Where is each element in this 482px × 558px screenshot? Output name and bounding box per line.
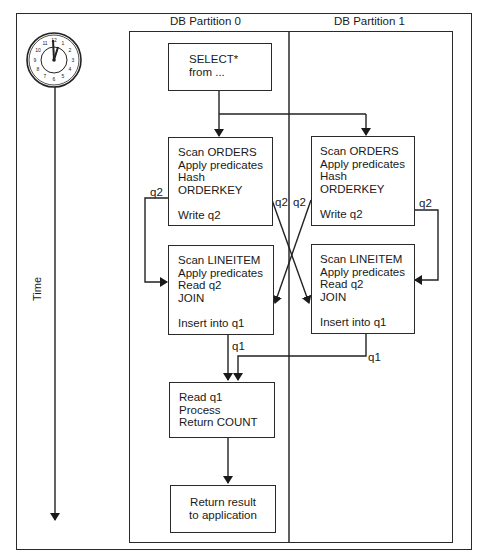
edge-orders-p1-lineitem-p0 [275,200,311,303]
node-return-result: Return result to application [170,485,276,533]
node-read-q1: Read q1 Process Return COUNT [169,382,275,438]
svg-text:3: 3 [72,57,75,63]
edge-orders-p1-lineitem-p1 [414,210,438,280]
svg-text:10: 10 [35,47,41,53]
svg-text:9: 9 [34,57,37,63]
svg-text:4: 4 [69,66,72,72]
node-scan-orders-p1: Scan ORDERS Apply predicates Hash ORDERK… [311,136,415,226]
edge-lineitem-p1-read-q1 [238,333,366,380]
svg-text:11: 11 [42,40,47,46]
node-scan-lineitem-p0: Scan LINEITEM Apply predicates Read q2 J… [168,245,274,335]
diagram-canvas: DB Partition 0 DB Partition 1 Time 12 1 … [0,0,482,558]
svg-text:7: 7 [44,73,47,79]
clock-icon: 12 1 2 3 4 5 6 7 8 9 10 11 [27,33,81,87]
edge-label-q1-p1: q1 [368,351,381,363]
node-scan-orders-p0: Scan ORDERS Apply predicates Hash ORDERK… [168,137,273,226]
node-scan-lineitem-p1: Scan LINEITEM Apply predicates Read q2 J… [311,244,415,334]
svg-text:5: 5 [62,73,65,79]
svg-text:12: 12 [51,37,57,43]
edge-label-q1-p0: q1 [232,340,245,352]
svg-text:6: 6 [53,76,56,82]
svg-text:1: 1 [62,40,65,46]
edge-orders-p0-lineitem-p0 [145,198,168,282]
edge-label-q2-left: q2 [150,186,163,198]
svg-text:2: 2 [69,47,72,53]
svg-text:8: 8 [37,66,40,72]
edge-label-q2-right: q2 [419,197,432,209]
edge-label-q2-cross-left: q2 [275,196,288,208]
edge-orders-p0-lineitem-p1 [272,200,309,303]
node-select-query: SELECT* from ... [168,43,272,91]
edge-label-q2-cross-right: q2 [293,196,306,208]
